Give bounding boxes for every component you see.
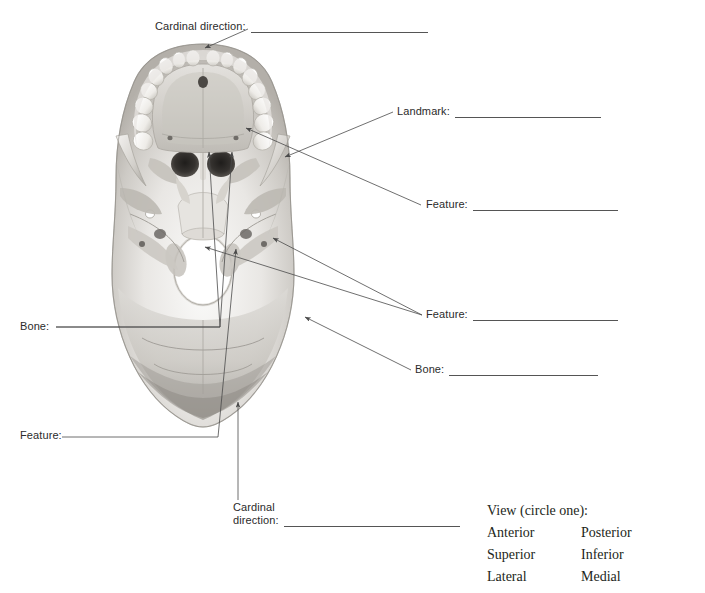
view-option-superior[interactable]: Superior [487, 547, 581, 563]
label-feature-left: Feature: [20, 429, 62, 442]
label-caption: Bone: [415, 363, 444, 376]
label-caption: Bone: [20, 320, 49, 333]
label-bone-left: Bone: [20, 320, 49, 333]
view-option-medial[interactable]: Medial [581, 569, 655, 585]
worksheet-page: Cardinal direction: Landmark: Feature: F… [0, 0, 705, 593]
label-cardinal-direction-bottom: Cardinal direction: [233, 501, 460, 527]
view-block-title: View (circle one): [487, 503, 655, 519]
label-cardinal-direction-top: Cardinal direction: [155, 20, 428, 33]
view-option-row: Lateral Medial [487, 569, 655, 585]
label-caption: Feature: [20, 429, 62, 442]
view-option-inferior[interactable]: Inferior [581, 547, 655, 563]
answer-blank-line[interactable] [455, 106, 601, 118]
view-option-row: Superior Inferior [487, 547, 655, 563]
view-option-posterior[interactable]: Posterior [581, 525, 655, 541]
label-caption: Landmark: [397, 105, 450, 118]
view-circle-one-block: View (circle one): Anterior Posterior Su… [487, 503, 655, 591]
label-caption: Feature: [426, 308, 468, 321]
label-caption: Feature: [426, 198, 468, 211]
answer-blank-line[interactable] [284, 515, 460, 527]
view-option-lateral[interactable]: Lateral [487, 569, 581, 585]
label-caption-line2: direction: [233, 514, 279, 526]
view-option-row: Anterior Posterior [487, 525, 655, 541]
label-feature-right-lower: Feature: [426, 308, 618, 321]
label-bone-right: Bone: [415, 363, 598, 376]
answer-blank-line[interactable] [473, 309, 618, 321]
label-caption-line1: Cardinal [233, 501, 460, 514]
label-feature-right-upper: Feature: [426, 198, 618, 211]
view-option-anterior[interactable]: Anterior [487, 525, 581, 541]
answer-blank-line[interactable] [251, 21, 428, 33]
label-caption: Cardinal direction: [155, 20, 246, 33]
label-landmark: Landmark: [397, 105, 601, 118]
answer-blank-line[interactable] [449, 364, 598, 376]
answer-blank-line[interactable] [473, 199, 618, 211]
